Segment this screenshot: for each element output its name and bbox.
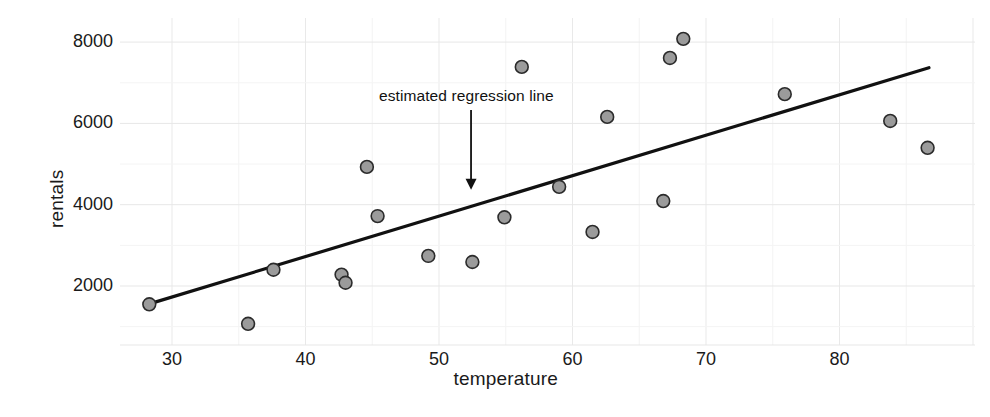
data-point [601, 110, 614, 123]
data-point [664, 52, 677, 65]
x-tick-label: 30 [142, 349, 202, 370]
data-point [466, 256, 479, 269]
data-point [515, 60, 528, 73]
x-tick-label: 50 [409, 349, 469, 370]
data-point [242, 317, 255, 330]
data-point [677, 32, 690, 45]
data-point [921, 141, 934, 154]
x-tick-label: 60 [543, 349, 603, 370]
x-tick-label: 80 [810, 349, 870, 370]
regression-line-annotation: estimated regression line [379, 87, 554, 105]
y-tick-label: 8000 [55, 31, 113, 52]
data-point [498, 211, 511, 224]
gridlines [120, 18, 975, 345]
annotation-arrow [466, 110, 477, 190]
scatter-plot-figure: rentals temperature 2000400060008000 304… [0, 0, 990, 417]
data-point [339, 276, 352, 289]
data-point [553, 180, 566, 193]
data-point [143, 298, 156, 311]
x-tick-label: 40 [276, 349, 336, 370]
x-tick-label: 70 [676, 349, 736, 370]
data-point [586, 226, 599, 239]
y-tick-label: 4000 [55, 194, 113, 215]
data-point [361, 160, 374, 173]
data-point [657, 195, 670, 208]
y-tick-label: 2000 [55, 275, 113, 296]
annotation-arrow-head [466, 179, 477, 190]
x-axis-label: temperature [0, 368, 990, 390]
data-point [778, 88, 791, 101]
data-point [422, 250, 435, 263]
data-point [371, 210, 384, 223]
y-tick-label: 6000 [55, 112, 113, 133]
data-point [267, 263, 280, 276]
data-point [884, 115, 897, 128]
